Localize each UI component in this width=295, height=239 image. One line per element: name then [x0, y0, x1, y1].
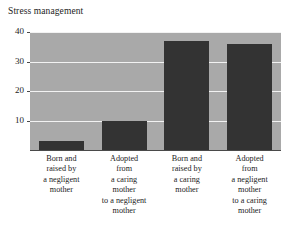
bar [39, 141, 84, 150]
x-axis-label-line: mother [219, 185, 280, 195]
y-axis-tick-label: 20 [0, 85, 24, 95]
y-axis-tick-mark [27, 62, 30, 63]
y-axis-tick-label: 30 [0, 56, 24, 66]
x-axis-line [30, 150, 281, 151]
y-axis-tick-label: 40 [0, 26, 24, 36]
x-axis-label-line: from [94, 164, 155, 174]
x-axis-label-line: Born and [157, 154, 218, 164]
x-axis-label-line: mother [31, 185, 92, 195]
x-axis-label-line: raised by [157, 164, 218, 174]
x-axis-category-label: Born andraised bya caringmother [156, 154, 219, 216]
x-axis-label-line: mother [219, 206, 280, 216]
bar [227, 44, 272, 150]
x-axis-label-line: Adopted [219, 154, 280, 164]
bar [102, 121, 147, 151]
x-axis-label-line: Adopted [94, 154, 155, 164]
x-axis-labels: Born andraised bya negligentmotherAdopte… [30, 154, 281, 216]
x-axis-label-line: Born and [31, 154, 92, 164]
x-axis-label-line: to a negligent [94, 196, 155, 206]
x-axis-label-line: raised by [31, 164, 92, 174]
x-axis-label-line: a caring [94, 175, 155, 185]
x-axis-label-line: a caring [157, 175, 218, 185]
plot-area [30, 32, 281, 150]
x-axis-category-label: Born andraised bya negligentmother [30, 154, 93, 216]
x-axis-label-line: mother [94, 185, 155, 195]
x-axis-label-line: to a caring [219, 196, 280, 206]
y-axis-tick-mark [27, 32, 30, 33]
x-axis-label-line: mother [157, 185, 218, 195]
x-axis-label-line: a negligent [219, 175, 280, 185]
x-axis-label-line: a negligent [31, 175, 92, 185]
x-axis-category-label: Adoptedfroma caringmotherto a negligentm… [93, 154, 156, 216]
y-axis-tick-label: 10 [0, 115, 24, 125]
y-axis-tick-mark [27, 91, 30, 92]
bar [164, 41, 209, 150]
chart-title: Stress management [8, 6, 83, 16]
gridline [30, 32, 281, 33]
x-axis-label-line: from [219, 164, 280, 174]
y-axis-tick-mark [27, 121, 30, 122]
x-axis-category-label: Adoptedfroma negligentmotherto a caringm… [218, 154, 281, 216]
x-axis-label-line: mother [94, 206, 155, 216]
stress-management-bar-chart: Stress management 10203040 Born andraise… [0, 0, 295, 239]
